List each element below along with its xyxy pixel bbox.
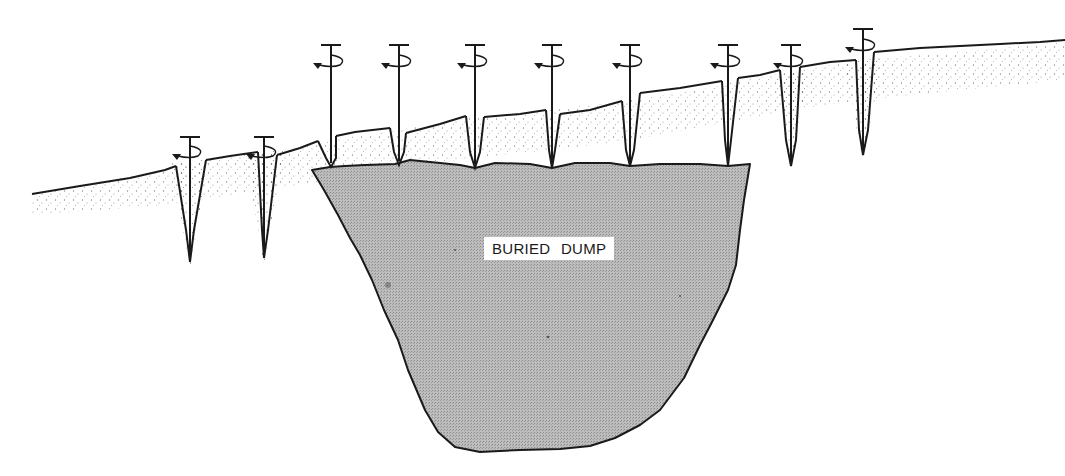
rotation-arrow-icon <box>457 55 487 69</box>
rotation-arrow-icon <box>845 39 875 53</box>
rotation-arrow-icon <box>534 55 564 69</box>
rotation-arrow-icon <box>313 55 343 69</box>
buried-dump-label: BURIED DUMP <box>484 237 614 260</box>
buried-dump-body <box>312 160 750 452</box>
rotation-arrow-icon <box>381 55 411 69</box>
rotation-arrow-icon <box>612 55 642 69</box>
rotation-arrow-icon <box>773 55 803 69</box>
rotation-arrow-icon <box>710 55 740 69</box>
rotation-arrow-icon <box>172 146 201 160</box>
